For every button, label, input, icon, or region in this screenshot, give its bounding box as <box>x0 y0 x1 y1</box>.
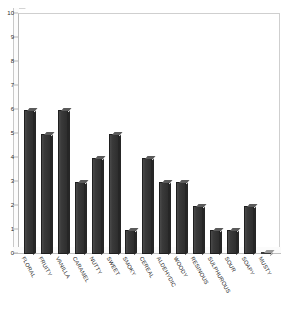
y-axis-tick-mark <box>14 157 18 158</box>
y-axis-tick-mark <box>14 109 18 110</box>
y-axis: 012345678910 <box>0 0 18 310</box>
bar[interactable] <box>125 230 135 254</box>
x-axis-label: MUSTY <box>257 256 272 277</box>
y-axis-tick-label: 10 <box>7 10 14 16</box>
y-axis-tick-mark <box>14 205 18 206</box>
bar[interactable] <box>210 230 220 254</box>
y-axis-tick-mark <box>14 253 18 254</box>
bars-container <box>19 13 280 254</box>
bar-chart: 012345678910 FLORALFRUITYVANILLACARAMELN… <box>0 0 299 310</box>
bar[interactable] <box>176 182 186 254</box>
bar[interactable] <box>261 252 271 255</box>
y-axis-tick-mark <box>14 37 18 38</box>
x-axis-label: SOUR <box>223 256 236 274</box>
bar[interactable] <box>41 134 51 254</box>
x-axis-label: SWEET <box>105 256 120 277</box>
x-axis-label: NUTTY <box>88 256 102 276</box>
x-axis-label: FRUITY <box>37 256 52 277</box>
x-axis-label: SOAPY <box>240 256 255 276</box>
x-axis-label: WOODY <box>172 256 188 279</box>
x-axis-label: FLORAL <box>20 256 36 279</box>
x-axis-label: CARAMEL <box>71 256 90 284</box>
bar[interactable] <box>75 182 85 254</box>
y-axis-tick-mark <box>14 13 18 14</box>
bar[interactable] <box>193 206 203 254</box>
bar[interactable] <box>24 110 34 254</box>
bar[interactable] <box>109 134 119 254</box>
y-axis-tick-mark <box>14 133 18 134</box>
bar[interactable] <box>92 158 102 254</box>
bar[interactable] <box>142 158 152 254</box>
bar[interactable] <box>244 206 254 254</box>
y-axis-tick-mark <box>14 229 18 230</box>
x-axis-label: CEREAL <box>138 256 154 279</box>
bar[interactable] <box>227 230 237 254</box>
x-axis-label: VANILLA <box>54 256 71 280</box>
bar[interactable] <box>159 182 169 254</box>
bar[interactable] <box>58 110 68 254</box>
y-axis-tick-mark <box>14 181 18 182</box>
x-axis-label: SMOKY <box>121 256 136 277</box>
x-axis-labels: FLORALFRUITYVANILLACARAMELNUTTYSWEETSMOK… <box>19 256 299 310</box>
y-axis-tick-mark <box>14 85 18 86</box>
x-axis-label: RESINOUS <box>189 256 209 286</box>
y-axis-tick-mark <box>14 61 18 62</box>
